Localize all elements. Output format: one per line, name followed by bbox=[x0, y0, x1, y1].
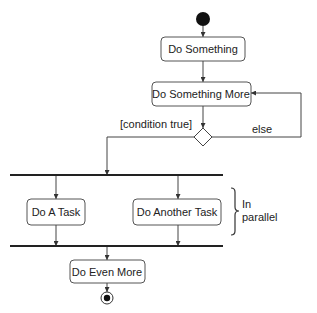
final-node bbox=[101, 292, 113, 304]
activity-diagram: Do Something Do Something More else [con… bbox=[0, 0, 317, 313]
action-label: Do Another Task bbox=[137, 206, 218, 218]
decision-node bbox=[194, 128, 212, 146]
guard-condition-true: [condition true] bbox=[120, 118, 192, 130]
action-do-a-task: Do A Task bbox=[27, 199, 85, 225]
action-label: Do A Task bbox=[32, 206, 81, 218]
initial-node bbox=[196, 12, 210, 26]
action-label: Do Something bbox=[168, 43, 238, 55]
guard-else: else bbox=[252, 123, 272, 135]
action-do-something-more: Do Something More bbox=[152, 82, 251, 106]
action-do-something: Do Something bbox=[161, 37, 245, 61]
action-label: Do Something More bbox=[152, 88, 250, 100]
annotation-in: In bbox=[242, 198, 251, 210]
action-do-another-task: Do Another Task bbox=[133, 199, 221, 225]
parallel-brace bbox=[231, 188, 239, 235]
edge-condition-true bbox=[107, 137, 194, 175]
annotation-parallel: parallel bbox=[242, 211, 277, 223]
action-do-even-more: Do Even More bbox=[70, 260, 145, 283]
action-label: Do Even More bbox=[72, 266, 142, 278]
